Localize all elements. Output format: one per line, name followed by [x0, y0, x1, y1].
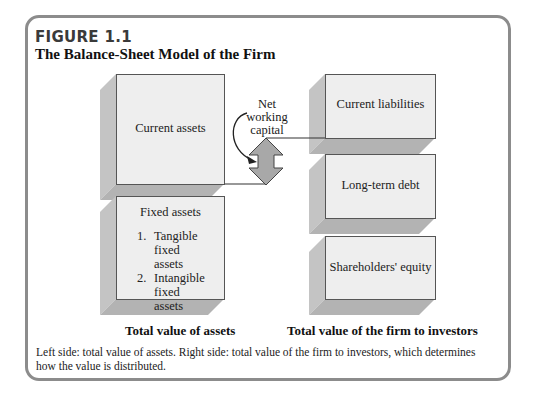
shareholders-equity-box: Shareholders' equity — [325, 236, 436, 300]
current-liabilities-label: Current liabilities — [326, 97, 435, 112]
long-term-debt-box: Long-term debt — [325, 154, 436, 219]
shareholders-equity-label: Shareholders' equity — [326, 260, 435, 275]
current-assets-label: Current assets — [117, 121, 224, 136]
long-term-debt-label: Long-term debt — [326, 178, 435, 193]
current-assets-box: Current assets — [116, 74, 225, 185]
fixed-assets-heading: Fixed assets — [117, 205, 224, 220]
net-working-capital-label: Net working capital — [240, 98, 294, 137]
right-caption: Total value of the firm to investors — [287, 323, 478, 339]
fixed-assets-box: Fixed assets 1. Tangible fixed assets 2.… — [116, 196, 225, 300]
fixed-assets-list: 1. Tangible fixed assets 2. Intangible f… — [137, 229, 224, 313]
list-item: 1. Tangible fixed assets — [137, 229, 224, 271]
figure-note: Left side: total value of assets. Right … — [36, 345, 476, 373]
list-item: 2. Intangible fixed assets — [137, 271, 224, 313]
current-liabilities-box: Current liabilities — [325, 74, 436, 139]
left-caption: Total value of assets — [125, 323, 235, 339]
